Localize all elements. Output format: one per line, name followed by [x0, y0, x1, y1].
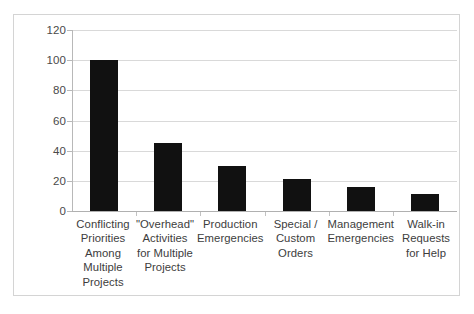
- x-tick-mark: [329, 212, 330, 216]
- x-axis-label: Management Emergencies: [327, 217, 395, 297]
- bar: [90, 60, 118, 211]
- y-tick-mark: [67, 151, 72, 152]
- y-tick-mark: [67, 121, 72, 122]
- bar: [347, 187, 375, 211]
- x-axis-label: Special / Custom Orders: [265, 217, 327, 297]
- x-axis-label: Conflicting Priorities Among Multiple Pr…: [72, 217, 134, 297]
- chart-screenshot: 020406080100120 Conflicting Priorities A…: [0, 0, 474, 314]
- bar: [154, 143, 182, 211]
- bar-series: [72, 30, 457, 211]
- bar: [218, 166, 246, 211]
- y-tick-label: 20: [53, 175, 66, 187]
- chart-frame: 020406080100120 Conflicting Priorities A…: [13, 14, 460, 296]
- y-tick-label: 0: [60, 205, 67, 217]
- y-tick-label: 40: [53, 145, 66, 157]
- y-tick-mark: [67, 30, 72, 31]
- x-tick-mark: [265, 212, 266, 216]
- bar: [411, 194, 439, 211]
- y-axis-line: [72, 30, 73, 212]
- x-tick-mark: [393, 212, 394, 216]
- y-tick-label: 100: [47, 54, 67, 66]
- bar: [283, 179, 311, 211]
- plot-area: [72, 30, 457, 211]
- x-axis-label: "Overhead" Activities for Multiple Proje…: [134, 217, 196, 297]
- x-axis-label: Production Emergencies: [196, 217, 264, 297]
- y-tick-mark: [67, 211, 72, 212]
- y-tick-label: 60: [53, 115, 66, 127]
- y-tick-label: 80: [53, 84, 66, 96]
- x-tick-mark: [136, 212, 137, 216]
- y-tick-mark: [67, 90, 72, 91]
- y-tick-label: 120: [47, 24, 67, 36]
- x-axis-labels: Conflicting Priorities Among Multiple Pr…: [72, 217, 457, 297]
- x-axis-label: Walk-in Requests for Help: [395, 217, 457, 297]
- x-tick-mark: [200, 212, 201, 216]
- y-axis-labels: 020406080100120: [14, 15, 66, 295]
- y-tick-mark: [67, 60, 72, 61]
- y-tick-mark: [67, 181, 72, 182]
